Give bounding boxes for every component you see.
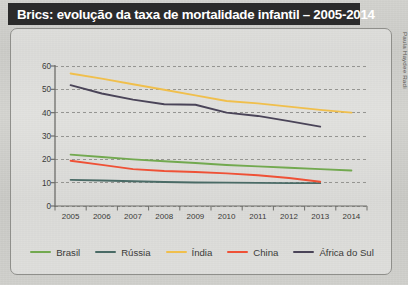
legend-label: Rússia: [121, 247, 150, 258]
x-axis-label: 2005: [62, 212, 80, 221]
legend-item-áfrica-do-sul[interactable]: África do Sul: [293, 247, 373, 258]
legend-item-brasil[interactable]: Brasil: [30, 247, 80, 258]
legend-color-swatch: [30, 251, 51, 253]
chart-frame: 0102030405060 20052006200720082009201020…: [10, 28, 392, 275]
legend-item-índia[interactable]: Índia: [166, 247, 213, 258]
legend-item-china[interactable]: China: [227, 247, 278, 258]
x-axis-label: 2009: [186, 212, 204, 221]
x-axis-label: 2010: [218, 212, 236, 221]
x-axis-label: 2013: [311, 212, 329, 221]
legend-item-rússia[interactable]: Rússia: [95, 247, 150, 258]
chart-legend: BrasilRússiaÍndiaChinaÁfrica do Sul: [11, 237, 393, 267]
chart-title-bar: Brics: evolução da taxa de mortalidade i…: [8, 3, 360, 25]
image-credit: Paula Haydee Radi: [402, 32, 408, 89]
x-axis-label: 2012: [280, 212, 298, 221]
legend-color-swatch: [227, 251, 248, 253]
legend-label: Brasil: [56, 247, 80, 258]
x-axis-label: 2014: [342, 212, 360, 221]
x-axis-label: 2006: [93, 212, 111, 221]
x-axis-label: 2008: [155, 212, 173, 221]
legend-color-swatch: [95, 251, 116, 253]
legend-label: África do Sul: [319, 247, 373, 258]
legend-label: China: [253, 247, 278, 258]
legend-color-swatch: [293, 251, 314, 253]
legend-color-swatch: [166, 251, 187, 253]
page-background: Brics: evolução da taxa de mortalidade i…: [0, 0, 408, 285]
x-axis-label: 2011: [249, 212, 266, 221]
x-axis-label: 2007: [124, 212, 142, 221]
page-title: Brics: evolução da taxa de mortalidade i…: [8, 7, 375, 22]
legend-label: Índia: [192, 247, 213, 258]
